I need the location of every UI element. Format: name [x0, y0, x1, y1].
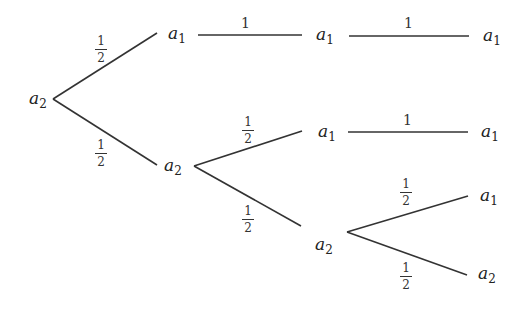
probability-tree-diagram: a2 a1 a2 a1 a1 a1 a1 a2 a1 a2 12 12 1 1 …	[0, 0, 523, 309]
node-index: 1	[326, 33, 334, 47]
fraction-bar	[242, 219, 254, 220]
node-index: 2	[488, 272, 496, 286]
node-index: 2	[39, 97, 47, 111]
node-n11: a1	[316, 26, 334, 46]
node-n22: a2	[315, 236, 333, 256]
node-index: 2	[174, 164, 182, 178]
node-n211: a1	[481, 123, 499, 143]
fraction-bar	[400, 276, 412, 277]
node-symbol: a	[168, 23, 178, 43]
node-symbol: a	[316, 24, 326, 44]
node-symbol: a	[483, 25, 493, 45]
prob-label-root-n2: 12	[94, 139, 108, 168]
node-symbol: a	[478, 263, 488, 283]
prob-label-n2-n22: 12	[241, 205, 255, 234]
fraction-numerator: 1	[241, 205, 255, 217]
prob-label-n22-n222: 12	[399, 262, 413, 291]
node-index: 1	[493, 34, 501, 48]
node-n222: a2	[478, 265, 496, 285]
prob-label-n1-n11: 1	[241, 16, 250, 30]
prob-label-n21-n211: 1	[403, 113, 412, 127]
tree-edges	[0, 0, 523, 309]
node-n111: a1	[483, 27, 501, 47]
fraction-numerator: 1	[94, 139, 108, 151]
node-n221: a1	[480, 187, 498, 207]
node-index: 1	[491, 130, 499, 144]
fraction-denominator: 2	[241, 133, 255, 145]
fraction-numerator: 1	[241, 116, 255, 128]
prob-label-n11-n111: 1	[404, 16, 413, 30]
node-symbol: a	[315, 234, 325, 254]
fraction-denominator: 2	[241, 222, 255, 234]
fraction-numerator: 1	[399, 178, 413, 190]
fraction-bar	[95, 49, 107, 50]
fraction-numerator: 1	[94, 35, 108, 47]
fraction-denominator: 2	[94, 52, 108, 64]
node-symbol: a	[29, 88, 39, 108]
node-symbol: a	[318, 121, 328, 141]
node-index: 2	[325, 243, 333, 257]
fraction-bar	[400, 192, 412, 193]
node-index: 1	[178, 32, 186, 46]
fraction-numerator: 1	[399, 262, 413, 274]
node-n1: a1	[168, 25, 186, 45]
node-root: a2	[29, 90, 47, 110]
node-index: 1	[328, 130, 336, 144]
fraction-bar	[242, 130, 254, 131]
fraction-denominator: 2	[399, 195, 413, 207]
node-symbol: a	[164, 155, 174, 175]
node-index: 1	[490, 194, 498, 208]
fraction-denominator: 2	[399, 279, 413, 291]
prob-label-root-n1: 12	[94, 35, 108, 64]
fraction-bar	[95, 153, 107, 154]
node-n2: a2	[164, 157, 182, 177]
prob-label-n2-n21: 12	[241, 116, 255, 145]
node-n21: a1	[318, 123, 336, 143]
node-symbol: a	[480, 185, 490, 205]
fraction-denominator: 2	[94, 156, 108, 168]
prob-label-n22-n221: 12	[399, 178, 413, 207]
node-symbol: a	[481, 121, 491, 141]
